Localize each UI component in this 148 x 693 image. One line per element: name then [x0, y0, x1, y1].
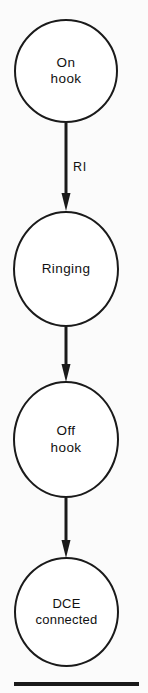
- state-node-dce-connected[interactable]: DCE connected: [14, 557, 119, 667]
- state-diagram: On hook RI Ringing Off hook DCE connecte…: [0, 0, 148, 693]
- arrow-head-icon-3: [62, 540, 71, 558]
- bottom-rule: [14, 682, 139, 686]
- state-label-dce-connected: DCE connected: [32, 596, 102, 628]
